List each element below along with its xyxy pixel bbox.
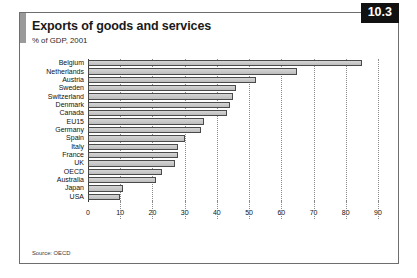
bar-row bbox=[88, 68, 378, 74]
bar bbox=[88, 118, 204, 124]
bar-row bbox=[88, 135, 378, 141]
bar bbox=[88, 194, 120, 200]
bar bbox=[88, 110, 227, 116]
page-title: Exports of goods and services bbox=[32, 19, 312, 34]
category-label: Sweden bbox=[59, 84, 84, 92]
bar bbox=[88, 60, 362, 66]
bar bbox=[88, 77, 256, 83]
bar-row bbox=[88, 127, 378, 133]
bar bbox=[88, 102, 230, 108]
plot-area bbox=[88, 59, 378, 201]
category-label: OECD bbox=[64, 168, 84, 176]
bar-row bbox=[88, 144, 378, 150]
bar bbox=[88, 93, 233, 99]
bar-row bbox=[88, 160, 378, 166]
gridline-extension bbox=[346, 201, 347, 219]
gridline-extension bbox=[217, 201, 218, 219]
gridline bbox=[378, 59, 379, 201]
bar bbox=[88, 169, 162, 175]
category-label: Canada bbox=[59, 109, 84, 117]
gridline-extension bbox=[185, 201, 186, 219]
bar-row bbox=[88, 194, 378, 200]
category-label: UK bbox=[74, 159, 84, 167]
category-label: Italy bbox=[71, 143, 84, 151]
bar-row bbox=[88, 60, 378, 66]
category-label: Austria bbox=[62, 76, 84, 84]
bar-row bbox=[88, 118, 378, 124]
gridline-extension bbox=[120, 201, 121, 219]
category-label: Denmark bbox=[56, 101, 84, 109]
tick-label: 0 bbox=[86, 209, 90, 216]
category-label: EU15 bbox=[66, 118, 84, 126]
category-label: Netherlands bbox=[46, 68, 84, 76]
bar-row bbox=[88, 110, 378, 116]
value-axis-tick-labels: 0102030405060708090 bbox=[88, 203, 378, 219]
gridline-extension bbox=[249, 201, 250, 219]
bar bbox=[88, 160, 175, 166]
bar bbox=[88, 144, 178, 150]
gridline-extension bbox=[378, 201, 379, 219]
source-note: Source: OECD bbox=[32, 250, 70, 256]
bar-row bbox=[88, 169, 378, 175]
gridline-extension bbox=[281, 201, 282, 219]
bar bbox=[88, 85, 236, 91]
chart-header: Exports of goods and services % of GDP, … bbox=[32, 19, 312, 46]
category-label: Australia bbox=[57, 176, 84, 184]
category-axis-labels: BelgiumNetherlandsAustriaSwedenSwitzerla… bbox=[20, 59, 84, 201]
gridline-extension bbox=[152, 201, 153, 219]
figure-number-badge: 10.3 bbox=[361, 3, 399, 23]
bar-row bbox=[88, 102, 378, 108]
bar-row bbox=[88, 185, 378, 191]
bar-row bbox=[88, 85, 378, 91]
category-label: Japan bbox=[65, 184, 84, 192]
category-label: Germany bbox=[55, 126, 84, 134]
bar bbox=[88, 152, 178, 158]
category-label: France bbox=[62, 151, 84, 159]
category-label: USA bbox=[70, 193, 84, 201]
bar-row bbox=[88, 77, 378, 83]
category-label: Spain bbox=[66, 134, 84, 142]
bar-row bbox=[88, 152, 378, 158]
chart-subtitle: % of GDP, 2001 bbox=[32, 35, 312, 46]
bar bbox=[88, 135, 185, 141]
category-label: Belgium bbox=[59, 59, 84, 67]
gridline-extension bbox=[314, 201, 315, 219]
bar bbox=[88, 127, 201, 133]
title-accent-bar bbox=[20, 13, 26, 43]
bar bbox=[88, 68, 297, 74]
bar bbox=[88, 177, 156, 183]
bar bbox=[88, 185, 123, 191]
figure-panel: Exports of goods and services % of GDP, … bbox=[19, 12, 399, 264]
category-label: Switzerland bbox=[48, 93, 84, 101]
bar-row bbox=[88, 93, 378, 99]
bar-row bbox=[88, 177, 378, 183]
